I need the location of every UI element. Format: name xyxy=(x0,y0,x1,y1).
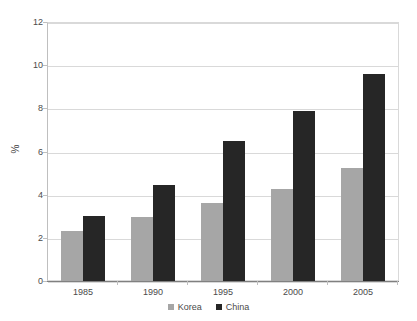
x-axis-tick-label-1990: 1990 xyxy=(118,287,188,298)
y-axis-tick-label: 2 xyxy=(3,234,43,243)
legend-swatch-icon xyxy=(216,304,222,310)
y-axis-tick-mark xyxy=(43,108,47,109)
y-axis-tick-mark xyxy=(43,22,47,23)
bar-korea-1995[interactable] xyxy=(201,203,223,281)
bar-china-1990[interactable] xyxy=(153,185,175,281)
x-axis-tick-marks xyxy=(48,281,398,285)
chart-legend: KoreaChina xyxy=(0,302,417,312)
y-axis-tick-label: 0 xyxy=(3,277,43,286)
x-axis-tick-mark xyxy=(188,281,258,285)
bar-china-1985[interactable] xyxy=(83,216,105,281)
y-axis-tick-mark xyxy=(43,195,47,196)
y-axis-tick-mark xyxy=(43,65,47,66)
bar-group xyxy=(188,22,258,281)
legend-swatch-icon xyxy=(168,304,174,310)
bar-china-2005[interactable] xyxy=(363,74,385,281)
x-axis-tick-mark xyxy=(328,281,398,285)
x-axis-tick-mark xyxy=(48,281,118,285)
bar-group xyxy=(118,22,188,281)
y-axis-tick-label: 6 xyxy=(3,148,43,157)
bar-groups xyxy=(48,22,398,281)
x-axis-tick-labels: 19851990199520002005 xyxy=(48,287,398,298)
y-axis-tick-mark xyxy=(43,238,47,239)
legend-item-korea[interactable]: Korea xyxy=(168,302,202,312)
bar-group xyxy=(48,22,118,281)
y-axis-tick-label: 10 xyxy=(3,61,43,70)
bar-china-1995[interactable] xyxy=(223,141,245,281)
bar-group xyxy=(258,22,328,281)
bar-korea-1990[interactable] xyxy=(131,217,153,281)
legend-item-china[interactable]: China xyxy=(216,302,250,312)
bar-chart: % 024681012 19851990199520002005 KoreaCh… xyxy=(0,0,417,321)
legend-label: Korea xyxy=(178,302,202,312)
bar-korea-1985[interactable] xyxy=(61,231,83,281)
y-axis-tick-label: 12 xyxy=(3,18,43,27)
y-axis-tick-labels: 024681012 xyxy=(0,22,43,281)
y-axis-tick-label: 8 xyxy=(3,104,43,113)
bar-group xyxy=(328,22,398,281)
x-axis-tick-label-1985: 1985 xyxy=(48,287,118,298)
legend-label: China xyxy=(226,302,250,312)
x-axis-tick-label-1995: 1995 xyxy=(188,287,258,298)
y-axis-tick-label: 4 xyxy=(3,191,43,200)
bar-china-2000[interactable] xyxy=(293,111,315,282)
bar-korea-2000[interactable] xyxy=(271,189,293,281)
y-axis-tick-mark xyxy=(43,152,47,153)
x-axis-tick-mark xyxy=(118,281,188,285)
bar-korea-2005[interactable] xyxy=(341,168,363,281)
x-axis-tick-label-2005: 2005 xyxy=(328,287,398,298)
x-axis-tick-mark xyxy=(258,281,328,285)
x-axis-tick-label-2000: 2000 xyxy=(258,287,328,298)
